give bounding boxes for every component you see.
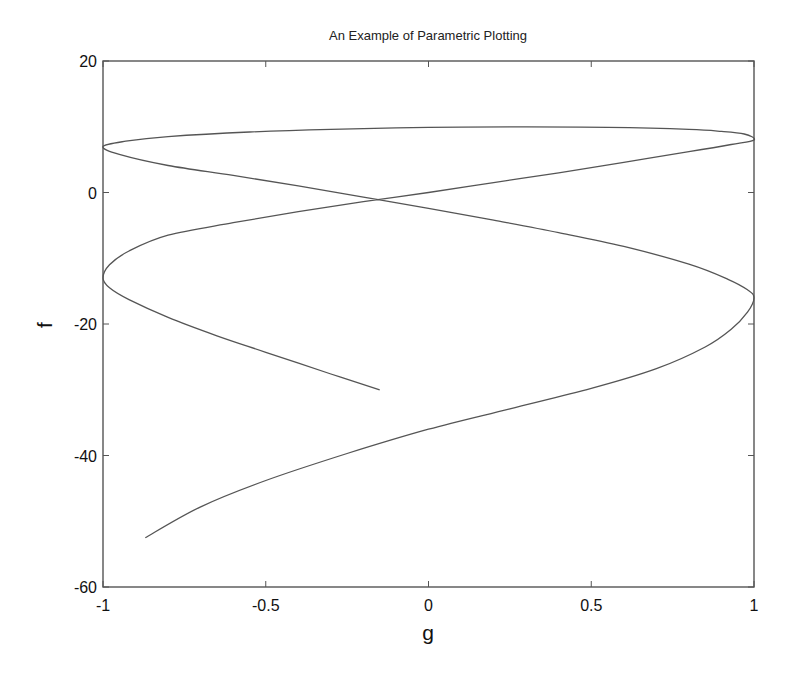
x-tick-label: 1 [750,597,759,614]
y-axis-label: f [33,322,56,328]
x-tick-label: -0.5 [252,597,280,614]
y-tick-label: -60 [74,579,97,596]
x-tick-label: 0.5 [580,597,602,614]
plot-frame [103,61,754,587]
x-tick-label: -1 [96,597,110,614]
y-tick-label: -40 [74,448,97,465]
y-tick-label: 0 [88,185,97,202]
parametric-plot: An Example of Parametric Plotting -1-0.5… [0,0,798,682]
y-tick-label: -20 [74,316,97,333]
chart-title: An Example of Parametric Plotting [329,28,527,43]
x-axis-label: g [422,621,434,644]
x-tick-label: 0 [424,597,433,614]
y-tick-label: 20 [79,53,97,70]
